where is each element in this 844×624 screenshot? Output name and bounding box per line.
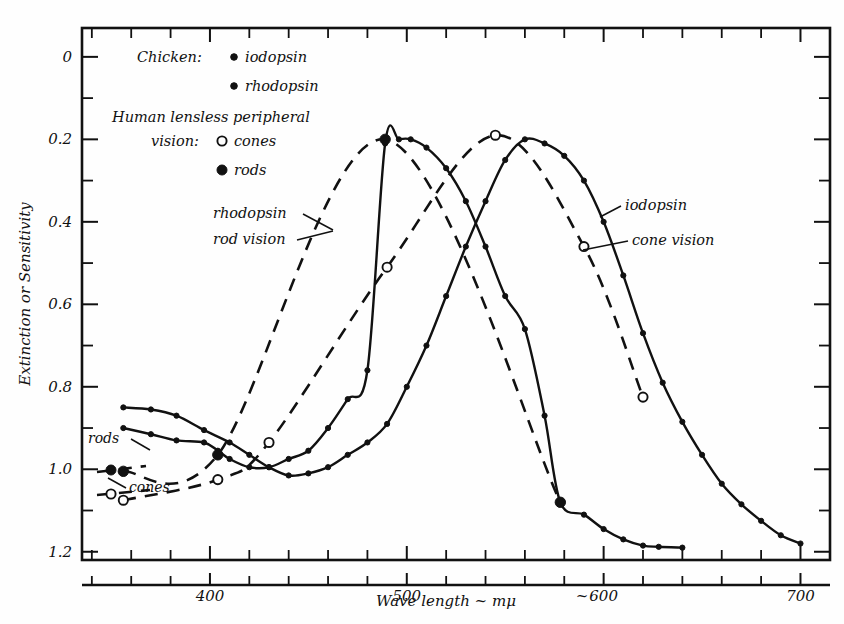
small-filled-dot-icon (542, 413, 547, 418)
legend-rhodopsin-label: rhodopsin (245, 78, 319, 94)
small-filled-dot-icon (365, 440, 370, 445)
small-filled-dot-icon (306, 448, 311, 453)
small-filled-dot-icon (201, 427, 206, 432)
small-filled-dot-icon (699, 452, 704, 457)
small-filled-dot-icon (522, 326, 527, 331)
small-filled-dot-icon (227, 440, 232, 445)
spectral-sensitivity-chart: 400500600700~ 00.20.40.60.81.01.2 Wave l… (0, 0, 844, 624)
small-filled-dot-icon (121, 405, 126, 410)
annotation-rods: rods (88, 430, 119, 446)
figure-canvas: 400500600700~ 00.20.40.60.81.01.2 Wave l… (0, 0, 844, 624)
small-filled-dot-icon (522, 137, 527, 142)
small-filled-dot-icon (201, 440, 206, 445)
small-filled-dot-icon (404, 384, 409, 389)
small-filled-dot-icon (719, 481, 724, 486)
small-filled-dot-icon (581, 512, 586, 517)
x-axis-ticks (92, 546, 801, 560)
large-filled-dot-icon (217, 165, 227, 175)
small-filled-dot-icon (601, 219, 606, 224)
small-filled-dot-icon (759, 518, 764, 523)
small-filled-dot-icon (325, 425, 330, 430)
leader-line-iodopsin (600, 206, 621, 217)
small-filled-dot-icon (444, 293, 449, 298)
small-filled-dot-icon (640, 543, 645, 548)
small-filled-dot-icon (640, 331, 645, 336)
large-open-circle-icon (119, 496, 128, 505)
leader-line-rhodopsin (303, 214, 333, 230)
large-open-circle-icon (264, 438, 273, 447)
small-filled-dot-icon (444, 166, 449, 171)
large-open-circle-icon (491, 131, 500, 140)
x-tick-label: 400 (195, 587, 225, 605)
legend-chicken-prefix: Chicken: (137, 49, 202, 65)
large-filled-dot-icon (380, 134, 390, 144)
legend-human-line1: Human lensless peripheral (111, 109, 310, 125)
annotation-rhodopsin: rhodopsin (213, 205, 287, 221)
right-axis-ticks (814, 57, 830, 552)
small-filled-dot-icon (581, 178, 586, 183)
small-filled-dot-icon (424, 145, 429, 150)
approx-sign: ~ (576, 587, 589, 605)
annotation-iodopsin: iodopsin (625, 197, 687, 213)
large-open-circle-icon (383, 263, 392, 272)
small-filled-dot-icon (174, 438, 179, 443)
y-tick-label: 0.2 (48, 130, 72, 148)
y-tick-label: 1.2 (48, 543, 72, 561)
large-open-circle-icon (638, 393, 647, 402)
small-filled-dot-icon (739, 502, 744, 507)
small-filled-dot-icon (601, 526, 606, 531)
legend-human-line2-prefix: vision: (151, 133, 199, 149)
small-filled-dot-icon (621, 273, 626, 278)
y-tick-label: 0.4 (48, 213, 72, 231)
large-open-circle-icon (217, 136, 226, 145)
leader-line-cones (108, 478, 126, 488)
legend-rods-label: rods (234, 162, 266, 178)
leader-line-rods (131, 439, 150, 450)
small-filled-dot-icon (325, 465, 330, 470)
small-filled-dot-icon (660, 380, 665, 385)
legend-iodopsin-label: iodopsin (245, 49, 307, 65)
small-filled-dot-icon (266, 465, 271, 470)
small-filled-dot-icon (247, 452, 252, 457)
small-filled-dot-icon (231, 54, 238, 61)
small-filled-dot-icon (656, 544, 661, 549)
small-filled-dot-icon (385, 421, 390, 426)
small-filled-dot-icon (345, 397, 350, 402)
small-filled-dot-icon (121, 425, 126, 430)
small-filled-dot-icon (148, 407, 153, 412)
small-filled-dot-icon (408, 137, 413, 142)
curve-1 (123, 139, 560, 502)
large-filled-dot-icon (213, 450, 223, 460)
small-filled-dot-icon (424, 343, 429, 348)
x-axis-title: Wave length ~ mμ (376, 592, 516, 610)
curve-2 (123, 138, 800, 543)
small-filled-dot-icon (680, 419, 685, 424)
annotation-cones: cones (129, 479, 170, 495)
small-filled-dot-icon (503, 293, 508, 298)
small-filled-dot-icon (396, 137, 401, 142)
large-filled-dot-icon (106, 465, 116, 475)
y-tick-label: 0.8 (48, 378, 72, 396)
annotation-cone-vision: cone vision (632, 232, 714, 248)
curve-3 (123, 135, 643, 500)
small-filled-dot-icon (503, 157, 508, 162)
annotation-cones: cones (108, 478, 170, 495)
small-filled-dot-icon (174, 413, 179, 418)
small-filled-dot-icon (483, 244, 488, 249)
large-open-circle-icon (213, 475, 222, 484)
small-filled-dot-icon (463, 199, 468, 204)
x-tick-label: 600 (589, 587, 618, 605)
small-filled-dot-icon (227, 456, 232, 461)
data-curves (123, 125, 800, 547)
small-filled-dot-icon (148, 432, 153, 437)
legend: Chicken: iodopsin rhodopsin Human lensle… (111, 49, 319, 178)
y-tick-label: 1.0 (48, 460, 72, 478)
small-filled-dot-icon (680, 545, 685, 550)
small-filled-dot-icon (798, 541, 803, 546)
annotation-rod-vision: rod vision (213, 231, 286, 247)
leader-line-cone-vision (583, 241, 628, 250)
small-filled-dot-icon (483, 199, 488, 204)
small-filled-dot-icon (621, 537, 626, 542)
x-tick-label: 700 (786, 587, 815, 605)
y-axis-ticks (82, 57, 98, 552)
